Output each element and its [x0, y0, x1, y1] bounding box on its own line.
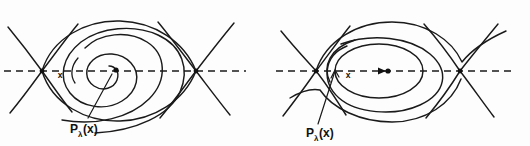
left-panel-leader-line: [88, 74, 112, 118]
left-panel-focus-point: [113, 67, 118, 72]
left-panel: x P λ (x): [4, 21, 246, 139]
left-panel-saddle-right: [194, 69, 199, 74]
left-panel-saddle-left: [40, 69, 45, 74]
left-panel-outer-loop-lower: [42, 71, 196, 121]
right-panel-axis-arrowhead: [378, 68, 386, 75]
right-panel-x-label: x: [346, 70, 351, 80]
left-panel-p-label-arg: (x): [83, 122, 98, 136]
right-panel-leader-line: [318, 71, 335, 124]
right-panel-center-point: [385, 68, 390, 73]
right-panel-saddle-left: [314, 69, 319, 74]
right-panel-outer-loop-lower: [290, 79, 461, 122]
left-panel-spiral-outer: [63, 28, 184, 133]
right-panel: x P λ (x): [276, 22, 512, 143]
left-panel-x-label: x: [58, 70, 63, 80]
figure-container: x P λ (x): [0, 0, 530, 146]
right-panel-p-label-arg: (x): [319, 126, 334, 140]
right-panel-saddle-right: [458, 69, 463, 74]
left-panel-separatrix-b: [10, 24, 78, 113]
right-panel-orbit-outer: [327, 38, 443, 112]
left-panel-p-label-main: P: [70, 122, 78, 136]
phase-portrait-figure: x P λ (x): [0, 0, 530, 146]
left-panel-p-label: P λ (x): [70, 122, 98, 139]
left-panel-separatrix-c: [158, 22, 230, 115]
right-panel-p-label: P λ (x): [306, 126, 334, 143]
left-panel-spiral-second: [62, 35, 162, 122]
right-panel-p-label-main: P: [306, 126, 314, 140]
